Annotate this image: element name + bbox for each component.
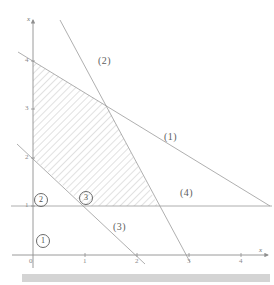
x-tick-label-4: 4 bbox=[239, 258, 243, 265]
x-tick-label-0: 0 bbox=[29, 258, 33, 265]
x-tick-label-1: 1 bbox=[83, 258, 87, 265]
x-tick-label-2: 2 bbox=[135, 258, 139, 265]
line-label-1: (1) bbox=[164, 132, 177, 142]
region-marker-2: 2 bbox=[34, 193, 48, 207]
x-tick-label-3: 3 bbox=[187, 258, 191, 265]
x-axis-name: x bbox=[259, 247, 262, 254]
region-marker-1: 1 bbox=[36, 234, 50, 248]
bottom-separator-bar bbox=[22, 274, 270, 282]
line-label-2: (2) bbox=[98, 56, 111, 66]
y-tick-label-1: 1 bbox=[25, 202, 29, 209]
feasible-region-shading bbox=[33, 61, 158, 206]
figure-root: 0 1 2 3 4 4 3 2 1 x x (1) (2) (3) (4) 1 … bbox=[0, 0, 274, 285]
y-tick-label-3: 3 bbox=[25, 105, 29, 112]
y-tick-label-4: 4 bbox=[25, 57, 29, 64]
region-marker-3: 3 bbox=[79, 191, 93, 205]
line-label-3: (3) bbox=[113, 222, 126, 232]
line-label-4: (4) bbox=[180, 188, 193, 198]
y-tick-label-2: 2 bbox=[25, 154, 29, 161]
y-axis-name: x bbox=[27, 16, 30, 23]
